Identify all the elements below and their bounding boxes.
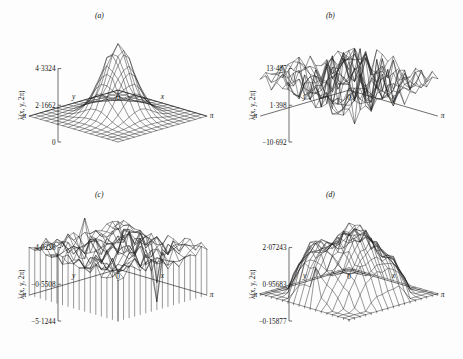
surface-skirt-path: [29, 247, 207, 321]
y-axis-label: y: [71, 92, 76, 101]
x-axis-max-label: π: [210, 111, 214, 120]
z-axis-tick-label: −10·692: [262, 139, 287, 147]
surface-plot-svg: 4·33242·16620ππ0yx(a)λ(x, y, 2π): [0, 0, 231, 179]
z-axis-title: λ(x, y, 2π): [249, 90, 257, 120]
panel-tag-label: (a): [95, 11, 104, 20]
axes-group: 2·072430·95683−0·15877ππ0yx: [253, 244, 444, 325]
surface-mesh-path: [260, 48, 438, 124]
surface-plot-svg: 2·072430·95683−0·15877ππ0yx(d)λ(x, y, 2π…: [231, 179, 462, 358]
panel-tag-label: (b): [326, 11, 335, 20]
surface-plot-panel-d: 2·072430·95683−0·15877ππ0yx(d)λ(x, y, 2π…: [231, 179, 462, 358]
z-axis-tick-label: 2·1662: [35, 102, 56, 110]
surface-mesh-path: [29, 44, 207, 142]
z-axis-tick-label: 2·07243: [263, 244, 287, 252]
surface-plot-panel-a: 4·33242·16620ππ0yx(a)λ(x, y, 2π): [0, 0, 231, 179]
z-axis-tick-label: 0·95683: [263, 281, 287, 289]
panel-tag-label: (d): [326, 190, 335, 199]
z-axis-tick-label: −5·1244: [31, 318, 56, 326]
z-axis-tick-label: −0·15877: [258, 318, 286, 326]
z-axis-title: λ(x, y, 2π): [18, 269, 26, 299]
x-axis-max-label: π: [441, 290, 445, 299]
x-axis-max-label: π: [210, 290, 214, 299]
x-axis-label: x: [160, 92, 165, 101]
surface-plot-svg: 13·4871·398−10·692ππ0yx(b)λ(x, y, 2π): [231, 0, 462, 179]
figure-container: 4·33242·16620ππ0yx(a)λ(x, y, 2π) 13·4871…: [0, 0, 463, 359]
z-axis-tick-label: 0: [52, 139, 56, 147]
wireframe-mesh: [29, 44, 207, 142]
surface-mesh-path: [260, 223, 438, 320]
wireframe-mesh: [260, 48, 438, 124]
surface-skirt-path: [260, 294, 438, 321]
axes-group: 4·33242·16620ππ0yx: [22, 65, 213, 146]
surface-plot-panel-c: 4·0228−0·5508−5·1244ππ0yx(c)λ(x, y, 2π): [0, 179, 231, 358]
wireframe-mesh: [29, 218, 207, 321]
z-axis-tick-label: 4·3324: [35, 65, 56, 73]
z-axis-tick-label: 1·398: [270, 102, 287, 110]
surface-plot-svg: 4·0228−0·5508−5·1244ππ0yx(c)λ(x, y, 2π): [0, 179, 231, 358]
z-axis-title: λ(x, y, 2π): [249, 269, 257, 299]
x-axis-label: x: [391, 271, 396, 280]
x-axis-max-label: π: [441, 111, 445, 120]
z-axis-title: λ(x, y, 2π): [18, 90, 26, 120]
panel-tag-label: (c): [95, 190, 104, 199]
surface-plot-panel-b: 13·4871·398−10·692ππ0yx(b)λ(x, y, 2π): [231, 0, 462, 179]
